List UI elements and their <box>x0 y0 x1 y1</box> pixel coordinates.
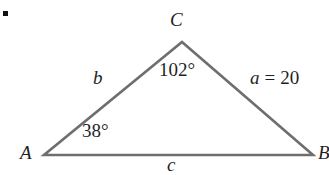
vertex-label-b: B <box>318 143 329 162</box>
side-label-c: c <box>167 155 175 174</box>
side-measure-a-value: 20 <box>280 67 299 88</box>
side-label-b: b <box>93 68 103 87</box>
side-measure-a: a=20 <box>250 68 299 87</box>
angle-label-c: 102° <box>159 60 195 79</box>
vertex-label-a: A <box>20 143 32 162</box>
side-measure-a-equals: = <box>265 67 276 88</box>
side-measure-a-variable: a <box>250 67 260 88</box>
angle-label-a: 38° <box>82 121 109 140</box>
vertex-label-c: C <box>170 10 183 29</box>
figure-canvas: C A B b c 102° 38° a=20 <box>0 0 329 175</box>
